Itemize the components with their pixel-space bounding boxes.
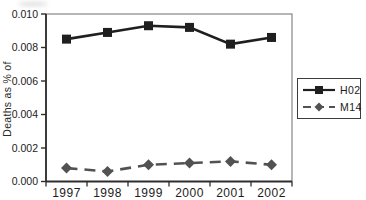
x-tick-label: 1998 xyxy=(93,186,122,200)
legend-label-m14: M14 xyxy=(340,101,362,113)
series-h02-marker-square xyxy=(62,35,71,44)
x-tick-label: 1997 xyxy=(52,186,81,200)
y-tick-label: 0.008 xyxy=(12,41,38,53)
legend-key-h02-icon xyxy=(302,84,336,96)
line-chart-figure: Deaths as % of 0.0000.0020.0040.0060.008… xyxy=(0,0,366,199)
series-h02-marker-square xyxy=(185,23,194,32)
legend-key-m14-icon xyxy=(302,101,336,113)
series-m14-marker-diamond xyxy=(184,158,195,169)
x-tick-label: 2000 xyxy=(175,186,204,200)
x-tick-label: 2001 xyxy=(216,186,245,200)
legend-label-h02: H02 xyxy=(340,84,360,96)
series-m14-marker-diamond xyxy=(102,166,113,177)
series-m14-marker-diamond xyxy=(266,159,277,170)
series-m14-marker-diamond xyxy=(143,159,154,170)
y-tick-label: 0.004 xyxy=(12,108,38,120)
legend: H02M14 xyxy=(297,78,361,119)
series-h02-marker-square xyxy=(103,28,112,37)
y-tick-label: 0.000 xyxy=(12,175,38,187)
x-tick-label: 1999 xyxy=(134,186,163,200)
series-h02-line xyxy=(67,26,272,44)
y-tick-label: 0.006 xyxy=(12,75,38,87)
y-tick-label: 0.002 xyxy=(12,142,38,154)
series-m14-line xyxy=(67,161,272,171)
series-m14 xyxy=(61,156,277,177)
series-m14-marker-diamond xyxy=(61,163,72,174)
legend-item-m14: M14 xyxy=(302,101,360,113)
y-tick-label: 0.010 xyxy=(12,8,38,20)
series-m14-marker-diamond xyxy=(225,156,236,167)
series-h02-marker-square xyxy=(267,33,276,42)
series-h02-marker-square xyxy=(226,40,235,49)
series-h02-marker-square xyxy=(144,21,153,30)
x-tick-label: 2002 xyxy=(257,186,286,200)
series-h02 xyxy=(62,21,276,48)
legend-item-h02: H02 xyxy=(302,84,360,96)
